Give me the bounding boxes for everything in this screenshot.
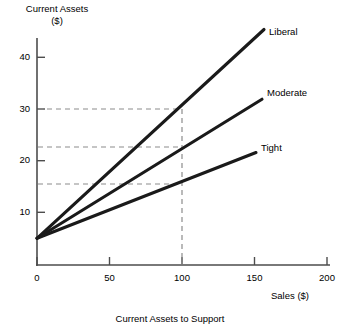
- y-tick-label-10: 10: [8, 206, 30, 217]
- y-tick-label-20: 20: [8, 154, 30, 165]
- x-tick-label-150: 150: [240, 272, 270, 283]
- series-line-moderate: [37, 99, 262, 238]
- series-label-tight: Tight: [261, 142, 282, 153]
- x-tick-label-50: 50: [95, 272, 125, 283]
- x-tick-label-100: 100: [167, 272, 197, 283]
- y-axis-title-line1: Current Assets: [5, 3, 109, 15]
- figure-caption: Current Assets to Support: [0, 313, 340, 324]
- series-line-tight: [37, 153, 256, 239]
- y-axis-title-line2: ($): [5, 15, 109, 27]
- y-axis-ticks: [37, 57, 45, 212]
- y-tick-label-40: 40: [8, 51, 30, 62]
- series-label-liberal: Liberal: [269, 26, 298, 37]
- x-axis-title: Sales ($): [271, 290, 309, 302]
- y-tick-label-30: 30: [8, 103, 30, 114]
- y-axis-title: Current Assets ($): [5, 3, 109, 26]
- series-lines: [37, 30, 264, 239]
- series-label-moderate: Moderate: [267, 87, 307, 98]
- series-line-liberal: [37, 30, 264, 239]
- reference-lines: [38, 109, 182, 265]
- x-tick-label-0: 0: [22, 272, 52, 283]
- x-tick-label-200: 200: [312, 272, 340, 283]
- axis-lines: [36, 38, 330, 266]
